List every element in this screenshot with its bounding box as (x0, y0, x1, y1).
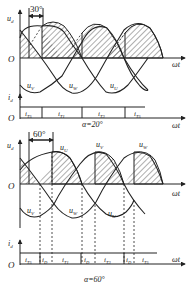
top-phase-label-v: uV (27, 81, 35, 91)
top-id-wt-label: ωt (172, 121, 181, 130)
bottom-phase-label-u: uU (108, 209, 116, 219)
top-phase-label-w: uW (69, 81, 78, 91)
bottom-origin-label: O (8, 181, 15, 191)
top-seg-it1: iT1 (58, 110, 65, 119)
top-wt-label: ωt (172, 60, 181, 69)
bottom-id-label: id (8, 239, 13, 249)
bottom-seg-id-a: iD (42, 256, 48, 265)
top-seg-it5-a: iT5 (25, 110, 32, 119)
bottom-seg-it1: iT1 (62, 256, 69, 265)
top-ud-label: ud (7, 14, 14, 24)
bottom-seg-it5-a: iT5 (25, 256, 32, 265)
angle-marker-30-label: 30° (30, 4, 43, 14)
bottom-ud-label: ud (7, 141, 14, 151)
rectifier-waveform-diagram: 30° ud O ωt uV uW uU id O iT5 iT1 iT3 iT… (0, 0, 191, 287)
top-seg-it3: iT3 (98, 110, 105, 119)
bottom-phase-label-v: uV (27, 206, 35, 216)
bottom-alpha-label: α=60° (84, 275, 106, 284)
bottom-hatched-output (20, 152, 163, 184)
bottom-seg-it3: iT3 (104, 256, 111, 265)
top-current-strip (20, 107, 145, 118)
top-id-label: id (8, 93, 13, 103)
bottom-wt-label: ωt (172, 189, 181, 198)
angle-marker-60-label: 60° (33, 129, 46, 139)
bottom-seg-id-c: iD (126, 256, 132, 265)
top-panel: 30° ud O ωt uV uW uU id O iT5 iT1 iT3 iT… (7, 4, 185, 130)
top-seg-it5-b: iT5 (134, 110, 141, 119)
bottom-phase-label-w: uW (69, 206, 78, 216)
top-alpha-label: α=20° (82, 120, 104, 129)
bottom-seg-id-b: iD (84, 256, 90, 265)
bottom-id-wt-label: ωt (172, 255, 181, 264)
top-origin-label: O (8, 54, 15, 64)
bottom-peak-label-w: uW (139, 140, 148, 150)
top-phase-label-u: uU (110, 81, 118, 91)
bottom-seg-it5-b: iT5 (142, 256, 149, 265)
bottom-peak-label-u: uU (60, 143, 68, 153)
bottom-peak-label-v: uV (96, 140, 104, 150)
top-id-origin-label: O (8, 113, 15, 123)
bottom-id-origin-label: O (8, 260, 15, 270)
bottom-panel: 60° ud O ωt uU uV uW uV uW uU id O iT5 i… (7, 129, 185, 284)
